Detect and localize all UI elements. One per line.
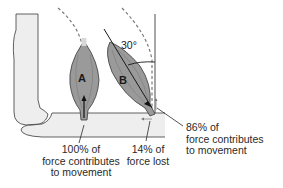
muscle-b-label: B (119, 74, 127, 86)
upper-arm-bone (13, 14, 48, 125)
muscle-a-label: A (78, 72, 86, 84)
callout-a-force: 100% of force contributes to movement (38, 144, 124, 179)
callout-b-force-lost: 14% of force lost (122, 144, 174, 167)
angle-label: 30° (121, 39, 137, 51)
callout-b-force-movement: 86% of force contributes to movement (186, 122, 264, 157)
muscle-angle-diagram: A B 30° 100% of force contributes to mov… (0, 0, 283, 188)
